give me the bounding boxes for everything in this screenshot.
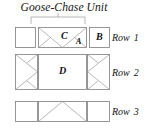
row2-flying-geese-right [15, 54, 38, 90]
patch-label-d: D [59, 66, 66, 76]
row-label-1: Row1 [112, 32, 139, 43]
goose-chase-unit-bracket [30, 13, 86, 25]
row-label-1-number: 1 [134, 32, 139, 43]
quilt-block-diagram: Goose-Chase Unit C A B Row1 D [0, 0, 151, 132]
row2-flying-geese-left [87, 54, 110, 90]
row-label-2-number: 2 [134, 67, 139, 78]
row3-patch-square-right [87, 101, 110, 122]
row-label-2: Row2 [112, 67, 139, 78]
row3-flying-geese-up [38, 101, 87, 122]
row-label-3: Row3 [112, 106, 139, 117]
row-label-1-text: Row [112, 32, 130, 43]
patch-label-b: B [96, 32, 103, 42]
patch-label-c: C [61, 31, 68, 41]
row3-patch-square-left [15, 101, 38, 122]
page-title: Goose-Chase Unit [0, 1, 128, 13]
row-label-3-number: 3 [134, 106, 139, 117]
row-label-3-text: Row [112, 106, 130, 117]
patch-label-a: A [76, 38, 81, 46]
row-label-2-text: Row [112, 67, 130, 78]
row1-patch-square-left [15, 27, 36, 48]
